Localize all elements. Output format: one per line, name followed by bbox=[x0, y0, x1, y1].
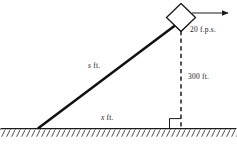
right-angle-marker bbox=[170, 119, 182, 129]
string-length-symbol: s bbox=[88, 61, 91, 70]
base-distance-label: x ft. bbox=[101, 114, 114, 122]
velocity-label: 20 f.p.s. bbox=[190, 26, 216, 34]
velocity-unit: f.p.s. bbox=[200, 25, 216, 34]
string-length-label: s ft. bbox=[88, 62, 100, 70]
ground-hatching bbox=[0, 129, 237, 137]
base-distance-unit: ft. bbox=[107, 113, 114, 122]
string-length-unit: ft. bbox=[93, 61, 100, 70]
height-unit: ft. bbox=[202, 72, 209, 81]
base-distance-symbol: x bbox=[101, 113, 105, 122]
height-value: 300 bbox=[188, 72, 200, 81]
kite-related-rates-figure: s ft. x ft. 300 ft. 20 f.p.s. bbox=[0, 0, 237, 148]
height-label: 300 ft. bbox=[188, 73, 209, 81]
velocity-value: 20 bbox=[190, 25, 198, 34]
